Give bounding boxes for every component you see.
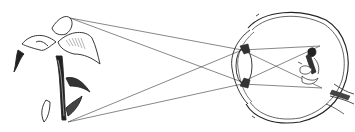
light-rays — [68, 18, 322, 122]
eye-image-formation-diagram — [0, 0, 355, 132]
flower-stem — [56, 56, 66, 120]
eye-cornea — [232, 30, 250, 104]
flower-petal-top — [52, 16, 72, 34]
ray-inner-4 — [242, 84, 322, 88]
eye-iris-lower — [240, 78, 250, 88]
eye-iris-upper — [240, 44, 250, 54]
eye-mark-bottom — [252, 116, 255, 118]
flower-leaf-left-tip — [14, 50, 24, 72]
flower-petal-right — [58, 32, 100, 64]
optic-nerve — [326, 84, 354, 114]
diagram-canvas — [0, 0, 355, 132]
eye-sclera-inner — [250, 16, 344, 119]
flower-leaf-lower — [42, 100, 50, 122]
flower-bud — [66, 96, 82, 116]
flower-leaf-right — [66, 78, 90, 92]
flower-petal-left — [22, 35, 56, 50]
retina-inverted-image — [298, 48, 319, 84]
ray-bottom-to-lower-lens — [68, 84, 242, 122]
ray-bottom-to-upper-lens — [68, 50, 242, 122]
eye-mark-top — [256, 14, 259, 16]
inverted-flower-mark — [298, 62, 302, 64]
flower-illustration — [14, 16, 100, 122]
eye-sclera-outer — [246, 12, 348, 123]
ray-top-to-upper-lens — [70, 18, 242, 50]
eye-illustration — [232, 12, 354, 123]
inverted-flower-petal-2 — [302, 76, 318, 84]
